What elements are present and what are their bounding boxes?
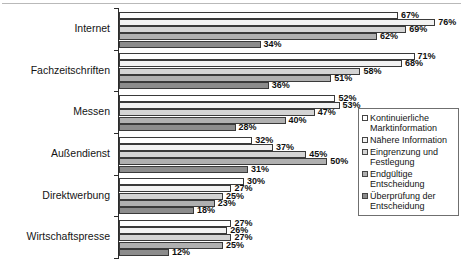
legend-item[interactable]: Überprüfung der Entscheidung [362,191,455,211]
bar[interactable] [119,158,327,165]
bar[interactable] [119,53,415,60]
bar[interactable] [119,144,273,151]
bar-row: 12% [119,249,452,256]
bar-row: 25% [119,242,452,249]
bar[interactable] [119,82,269,89]
bar-chart: InternetFachzeitschriftenMessenAußendien… [0,0,463,272]
bar[interactable] [119,220,231,227]
category-axis-labels: InternetFachzeitschriftenMessenAußendien… [0,8,114,260]
bar-row: 69% [119,26,452,33]
legend-swatch-icon [362,137,368,143]
legend-item[interactable]: Kontinuierliche Marktinformation [362,113,455,133]
bar-value-label: 18% [197,205,215,216]
category-label: Fachzeitschriften [31,65,110,76]
bar[interactable] [119,19,435,26]
bar-row: 34% [119,41,452,48]
bar-row: 76% [119,19,452,26]
bar[interactable] [119,185,231,192]
axis-tick [114,50,119,51]
bar[interactable] [119,102,340,109]
bar[interactable] [119,249,169,256]
bar-row: 27% [119,220,452,227]
bar-row: 67% [119,12,452,19]
bar[interactable] [119,33,377,40]
bar-value-label: 31% [251,164,269,175]
bar[interactable] [119,234,231,241]
bar-row: 52% [119,95,452,102]
bar[interactable] [119,227,227,234]
legend-item-label: Kontinuierliche Marktinformation [370,113,455,133]
bar-row: 36% [119,82,452,89]
bar[interactable] [119,75,331,82]
legend-item[interactable]: Endgültige Entscheidung [362,169,455,189]
bar[interactable] [119,41,261,48]
category-label: Außendienst [51,148,110,159]
bar[interactable] [119,193,223,200]
bar[interactable] [119,117,286,124]
category-label: Direktwerbung [42,190,110,201]
bar-value-label: 36% [272,80,290,91]
axis-tick [114,91,119,92]
bar-row: 62% [119,33,452,40]
bar[interactable] [119,68,360,75]
bar[interactable] [119,166,248,173]
axis-tick [114,175,119,176]
axis-tick [114,258,119,259]
bar[interactable] [119,137,252,144]
legend-item-label: Nähere Information [370,135,447,145]
bar-row: 26% [119,227,452,234]
bar[interactable] [119,109,315,116]
bar-row: 71% [119,53,452,60]
bar[interactable] [119,178,244,185]
legend-swatch-icon [362,171,368,177]
bar-row: 58% [119,68,452,75]
bar-group: 71%68%58%51%36% [119,53,452,90]
legend-item-label: Endgültige Entscheidung [370,169,455,189]
axis-tick [114,216,119,217]
legend-swatch-icon [362,193,368,199]
bar-value-label: 34% [264,39,282,50]
axis-tick [114,133,119,134]
bar[interactable] [119,95,335,102]
category-label: Wirtschaftspresse [27,231,110,242]
legend: Kontinuierliche MarktinformationNähere I… [358,108,459,216]
bar[interactable] [119,60,402,67]
bar-value-label: 12% [172,247,190,258]
bar-row: 68% [119,60,452,67]
bar[interactable] [119,124,236,131]
bar-row: 27% [119,234,452,241]
category-label: Internet [74,23,110,34]
legend-item-label: Eingrenzung und Festlegung [370,147,455,167]
bar-group: 67%76%69%62%34% [119,12,452,49]
bar[interactable] [119,26,406,33]
bar[interactable] [119,207,194,214]
legend-item[interactable]: Eingrenzung und Festlegung [362,147,455,167]
legend-swatch-icon [362,115,368,121]
bar-value-label: 28% [239,122,257,133]
legend-item-label: Überprüfung der Entscheidung [370,191,455,211]
legend-swatch-icon [362,149,368,155]
category-label: Messen [73,106,110,117]
bar[interactable] [119,12,398,19]
axis-tick [114,8,119,9]
bar[interactable] [119,151,306,158]
legend-item[interactable]: Nähere Information [362,135,455,145]
bar-group: 27%26%27%25%12% [119,220,452,257]
